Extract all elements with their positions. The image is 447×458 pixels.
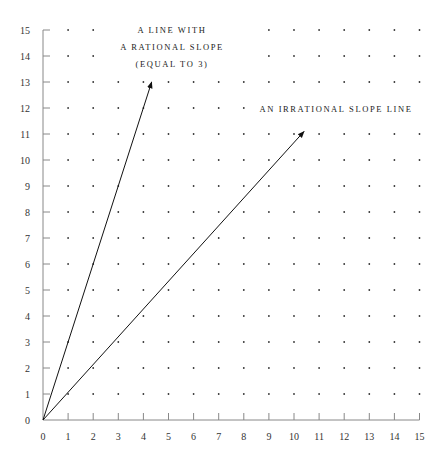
- x-tick-label: 11: [314, 431, 324, 442]
- annotation-irrational: AN IRRATIONAL SLOPE LINE: [259, 104, 412, 114]
- x-tick-label: 2: [91, 431, 96, 442]
- y-tick-label: 15: [20, 25, 30, 36]
- y-tick-label: 6: [25, 259, 30, 270]
- y-tick-label: 9: [25, 181, 30, 192]
- grid-dots: [67, 29, 420, 395]
- y-tick-label: 8: [25, 207, 30, 218]
- x-tick-label: 13: [364, 431, 374, 442]
- chart: 0123456789101112131415012345678910111213…: [0, 0, 447, 458]
- annotation-rational-line3: (EQUAL TO 3): [136, 59, 209, 69]
- x-tick-label: 9: [266, 431, 271, 442]
- x-tick-label: 15: [415, 431, 425, 442]
- y-tick-label: 13: [20, 77, 30, 88]
- x-tick-label: 3: [116, 431, 121, 442]
- x-tick-label: 8: [241, 431, 246, 442]
- annotation-rational-line1: A LINE WITH: [138, 25, 207, 35]
- x-tick-label: 6: [191, 431, 196, 442]
- series-lines: [43, 82, 304, 420]
- series-line: [43, 82, 152, 420]
- x-tick-label: 12: [339, 431, 349, 442]
- x-tick-label: 7: [216, 431, 221, 442]
- annotation-rational-line2: A RATIONAL SLOPE: [120, 42, 224, 52]
- x-tick-label: 4: [141, 431, 146, 442]
- y-tick-label: 14: [20, 51, 30, 62]
- series-line: [43, 131, 304, 420]
- y-tick-label: 4: [25, 311, 30, 322]
- y-tick-label: 10: [20, 155, 30, 166]
- y-tick-label: 12: [20, 103, 30, 114]
- y-tick-label: 5: [25, 285, 30, 296]
- y-tick-label: 3: [25, 337, 30, 348]
- x-tick-label: 0: [41, 431, 46, 442]
- y-tick-label: 2: [25, 363, 30, 374]
- y-tick-label: 1: [25, 389, 30, 400]
- x-tick-label: 14: [389, 431, 399, 442]
- y-tick-label: 0: [25, 415, 30, 426]
- axes: 0123456789101112131415012345678910111213…: [20, 25, 425, 443]
- x-tick-label: 10: [289, 431, 299, 442]
- y-tick-label: 11: [20, 129, 30, 140]
- x-tick-label: 1: [66, 431, 71, 442]
- x-tick-label: 5: [166, 431, 171, 442]
- y-tick-label: 7: [25, 233, 30, 244]
